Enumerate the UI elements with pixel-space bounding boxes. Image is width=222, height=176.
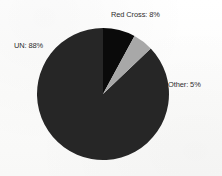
pie-label-other: Other: 5% xyxy=(168,80,201,90)
pie-label-un: UN: 88% xyxy=(14,41,43,51)
pie-label-red-cross: Red Cross: 8% xyxy=(111,10,160,20)
pie-chart-figure: Red Cross: 8% UN: 88% Other: 5% xyxy=(0,0,222,176)
pie-slices-group xyxy=(37,28,169,160)
